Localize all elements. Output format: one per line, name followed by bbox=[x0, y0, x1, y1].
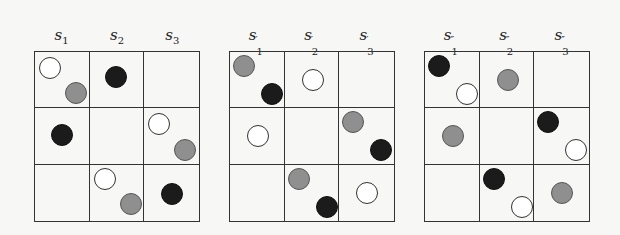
column-label: s′2 bbox=[304, 26, 320, 44]
column-label: s′1 bbox=[249, 26, 265, 44]
cell-r3-c3 bbox=[534, 165, 589, 221]
column-label: s″1 bbox=[444, 26, 460, 44]
black-circle bbox=[537, 111, 559, 133]
cell-r3-c2 bbox=[285, 165, 340, 221]
cell-r2-c1 bbox=[230, 108, 285, 164]
cell-r1-c1 bbox=[425, 52, 480, 108]
cell-r1-c1 bbox=[230, 52, 285, 108]
cell-r2-c2 bbox=[480, 108, 535, 164]
column-label: s′3 bbox=[359, 26, 375, 44]
panel-s-double-prime: s″1s″2s″3 bbox=[0, 0, 200, 235]
gray-circle bbox=[233, 55, 255, 77]
cell-r3-c1 bbox=[425, 165, 480, 221]
cell-r1-c2 bbox=[480, 52, 535, 108]
white-circle bbox=[356, 182, 378, 204]
white-circle bbox=[302, 69, 324, 91]
grid-3x3 bbox=[424, 51, 590, 222]
cell-r1-c3 bbox=[339, 52, 394, 108]
cell-r3-c2 bbox=[480, 165, 535, 221]
cell-r1-c2 bbox=[285, 52, 340, 108]
cell-r3-c1 bbox=[230, 165, 285, 221]
white-circle bbox=[565, 139, 587, 161]
cell-r2-c3 bbox=[339, 108, 394, 164]
white-circle bbox=[247, 125, 269, 147]
cell-r2-c2 bbox=[285, 108, 340, 164]
cell-r1-c3 bbox=[534, 52, 589, 108]
black-circle bbox=[261, 83, 283, 105]
black-circle bbox=[370, 139, 392, 161]
white-circle bbox=[456, 83, 478, 105]
gray-circle bbox=[342, 111, 364, 133]
black-circle bbox=[428, 55, 450, 77]
cell-r3-c3 bbox=[339, 165, 394, 221]
gray-circle bbox=[442, 125, 464, 147]
gray-circle bbox=[288, 168, 310, 190]
gray-circle bbox=[551, 182, 573, 204]
white-circle bbox=[511, 196, 533, 218]
column-label: s″2 bbox=[499, 26, 515, 44]
cell-r2-c3 bbox=[534, 108, 589, 164]
cell-r2-c1 bbox=[425, 108, 480, 164]
column-label: s″3 bbox=[554, 26, 570, 44]
black-circle bbox=[316, 196, 338, 218]
grid-3x3 bbox=[229, 51, 395, 222]
black-circle bbox=[483, 168, 505, 190]
gray-circle bbox=[497, 69, 519, 91]
